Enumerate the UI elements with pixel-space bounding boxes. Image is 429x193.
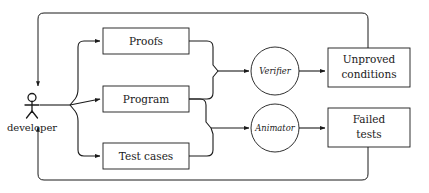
node-animator-label: Animator <box>254 123 295 133</box>
node-proofs[interactable]: Proofs <box>103 28 189 54</box>
actor-developer: developer <box>7 94 57 133</box>
edge-to-verifier <box>189 41 249 99</box>
node-verifier-label: Verifier <box>259 66 291 76</box>
node-unproved-conditions-label-line1: Unproved <box>343 53 396 65</box>
edge-to-animator <box>189 99 249 156</box>
diagram-svg: developer Proofs Program Test cases <box>0 0 429 193</box>
edge-developer-fanout <box>40 41 100 156</box>
node-program[interactable]: Program <box>103 86 189 112</box>
node-failed-tests-label-line2: tests <box>356 128 381 140</box>
node-proofs-label: Proofs <box>129 35 163 47</box>
node-failed-tests-label-line1: Failed <box>353 113 386 125</box>
node-verifier[interactable]: Verifier <box>251 47 299 95</box>
node-animator[interactable]: Animator <box>251 104 299 152</box>
node-failed-tests[interactable]: Failed tests <box>328 108 410 147</box>
edge-failed-tests-to-developer <box>38 127 368 180</box>
node-unproved-conditions[interactable]: Unproved conditions <box>328 48 410 87</box>
edge-unproved-conditions-to-developer <box>38 13 368 86</box>
node-program-label: Program <box>123 93 169 105</box>
node-test-cases[interactable]: Test cases <box>103 143 189 169</box>
actor-head-icon <box>28 94 36 102</box>
node-unproved-conditions-label-line2: conditions <box>341 68 396 80</box>
actor-legs-icon <box>27 111 38 118</box>
diagram-canvas: developer Proofs Program Test cases <box>0 0 429 193</box>
node-test-cases-label: Test cases <box>119 150 173 162</box>
actor-label: developer <box>7 122 57 133</box>
